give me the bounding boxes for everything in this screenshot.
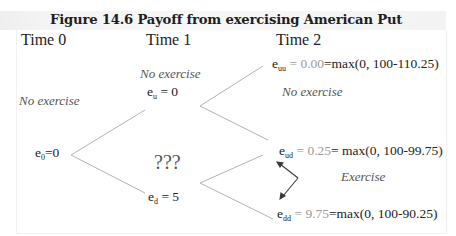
branch-0-down (71, 155, 145, 193)
node-edd-eq: = (291, 206, 305, 221)
node-euu-value: 0.00 (300, 56, 324, 71)
node-eud-value: 0.25 (307, 143, 331, 158)
node-edd: edd = 9.75=max(0, 100-90.25) (277, 206, 437, 223)
time2-uu-note: No exercise (282, 84, 343, 100)
diagram-canvas: Figure 14.6 Payoff from exercising Ameri… (0, 0, 456, 236)
node-eud-formula: = max(0, 100-99.75) (331, 143, 443, 158)
node-eud-eq: = (293, 143, 307, 158)
node-euu-subscript: uu (278, 64, 286, 73)
time0-note: No exercise (19, 93, 80, 109)
node-euu: euu = 0.00=max(0, 100-110.25) (272, 56, 439, 73)
branch-d-up (200, 155, 263, 183)
node-eud: eud = 0.25= max(0, 100-99.75) (279, 143, 443, 160)
time1-up-note: No exercise (140, 66, 201, 82)
node-ed-value: = 5 (158, 189, 179, 204)
branch-d-down (200, 183, 273, 219)
column-header-time1: Time 1 (146, 31, 191, 49)
node-edd-formula: =max(0, 100-90.25) (329, 206, 437, 221)
branch-0-up (71, 110, 145, 155)
branch-u-up (200, 66, 263, 106)
node-euu-eq: = (286, 56, 300, 71)
column-header-time0: Time 0 (21, 31, 66, 49)
node-edd-value: 9.75 (305, 206, 329, 221)
node-euu-formula: =max(0, 100-110.25) (324, 56, 439, 71)
binomial-tree-lines (0, 0, 456, 236)
node-ed: ed = 5 (148, 189, 179, 206)
column-header-time2: Time 2 (276, 31, 321, 49)
node-eu: eu = 0 (147, 84, 178, 101)
node-e0-value: =0 (45, 145, 59, 160)
exercise-arrows (277, 162, 298, 199)
node-e0: e0=0 (35, 145, 59, 162)
node-eu-value: = 0 (157, 84, 178, 99)
unknown-decision: ??? (154, 151, 181, 174)
exercise-note: Exercise (341, 169, 385, 185)
node-eud-subscript: ud (285, 151, 293, 160)
node-edd-subscript: dd (283, 214, 291, 223)
branch-u-down (200, 106, 268, 140)
